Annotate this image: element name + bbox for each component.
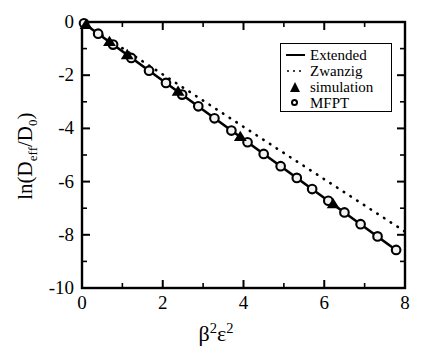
solid-line-key-icon <box>285 47 307 63</box>
mfpt-marker <box>373 232 382 241</box>
dotted-line-key-icon <box>285 63 307 79</box>
triangle-marker-key-icon <box>285 79 307 95</box>
x-axis-label-eps-exp: 2 <box>226 320 233 336</box>
y-tick-label: 0 <box>4 12 74 31</box>
y-axis-label-sub-eff: eff <box>25 147 40 161</box>
legend-label-extended: Extended <box>310 48 367 63</box>
x-tick-label: 8 <box>380 293 430 312</box>
mfpt-marker <box>392 246 401 255</box>
mfpt-marker <box>162 79 171 88</box>
x-axis-label: β2ε2 <box>0 320 432 347</box>
legend-label-mfpt: MFPT <box>310 96 349 111</box>
legend-label-zwanzig: Zwanzig <box>310 64 362 79</box>
legend-label-simulation: simulation <box>310 80 373 95</box>
y-axis-label-pre: ln(D <box>13 161 37 200</box>
y-axis-label: ln(Deff/D0) <box>13 71 41 241</box>
mfpt-marker <box>194 102 203 111</box>
legend-item-simulation: simulation <box>285 79 387 95</box>
legend-item-zwanzig: Zwanzig <box>285 63 387 79</box>
mfpt-marker <box>210 114 219 123</box>
legend-item-extended: Extended <box>285 47 387 63</box>
mfpt-marker <box>308 185 317 194</box>
x-axis-label-eps: ε <box>217 321 226 346</box>
y-axis-label-mid: /D <box>13 126 37 147</box>
x-axis-label-beta-exp: 2 <box>210 320 217 336</box>
mfpt-marker <box>356 220 365 229</box>
y-axis-label-post: ) <box>13 112 37 119</box>
x-tick-label: 2 <box>138 293 188 312</box>
mfpt-marker <box>276 162 285 171</box>
legend-box: Extended Zwanzig simulation MFPT <box>280 43 392 112</box>
mfpt-marker <box>340 208 349 217</box>
mfpt-marker <box>259 150 268 159</box>
figure-container: 0-2-4-6-8-10 02468 ln(Deff/D0) β2ε2 Exte… <box>0 0 432 360</box>
mfpt-marker <box>94 29 103 38</box>
x-axis-label-beta: β <box>199 321 210 346</box>
x-tick-label: 0 <box>57 293 107 312</box>
mfpt-marker <box>292 174 301 183</box>
mfpt-marker <box>145 66 154 75</box>
x-tick-label: 4 <box>219 293 269 312</box>
legend-item-mfpt: MFPT <box>285 95 387 111</box>
y-axis-label-sub-zero: 0 <box>25 119 40 126</box>
circle-marker-key-icon <box>285 95 307 111</box>
x-tick-label: 6 <box>299 293 349 312</box>
mfpt-marker <box>227 126 236 135</box>
